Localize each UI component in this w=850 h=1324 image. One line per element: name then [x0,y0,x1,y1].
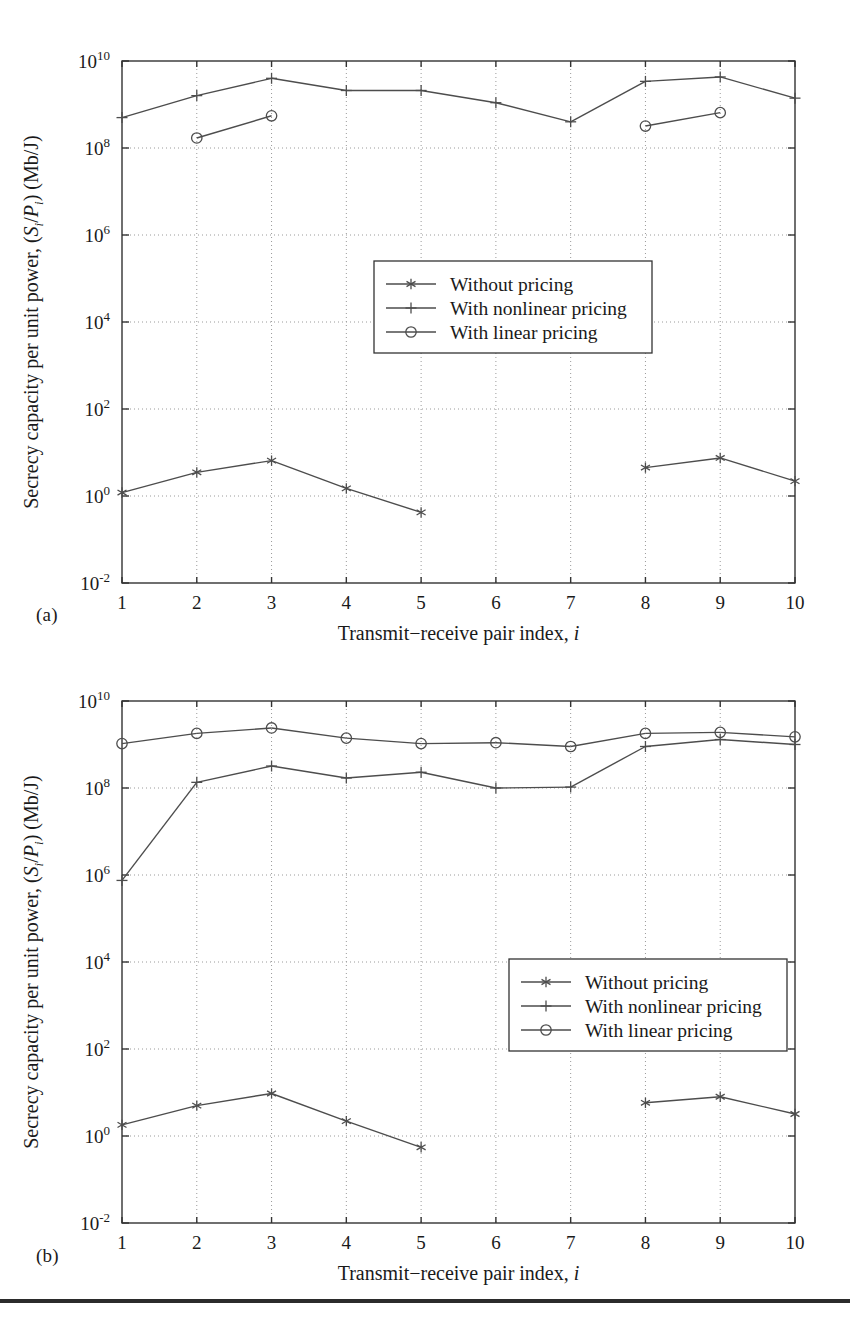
y-tick-label: 104 [85,309,111,333]
y-tick-label: 10-2 [80,1210,110,1234]
x-tick-label: 10 [786,1232,805,1253]
y-tick-label: 1010 [78,688,110,712]
legend: Without pricingWith nonlinear pricingWit… [509,959,787,1051]
chart-panel-b: 10-2100102104106108101012345678910Transm… [0,648,850,1288]
y-axis-title: Secrecy capacity per unit power, (Si/Pi)… [20,135,46,509]
x-tick-label: 7 [566,1232,576,1253]
y-tick-label: 10-2 [80,570,110,594]
x-tick-label: 9 [715,592,725,613]
legend-label: Without pricing [585,972,708,993]
x-tick-label: 7 [566,592,576,613]
y-tick-label: 102 [85,1036,111,1060]
x-tick-label: 4 [342,592,352,613]
x-tick-label: 1 [117,1232,127,1253]
chart-b-svg: 10-2100102104106108101012345678910Transm… [0,648,850,1288]
legend-label: With linear pricing [450,322,598,343]
x-tick-label: 8 [641,1232,651,1253]
x-tick-label: 3 [267,592,277,613]
subfigure-label-a: (a) [36,604,58,626]
chart-panel-a: 10-2100102104106108101012345678910Transm… [0,0,850,648]
y-tick-label: 108 [85,775,111,799]
y-tick-label: 106 [85,222,111,246]
y-tick-label: 100 [85,1123,111,1147]
y-tick-label: 1010 [78,48,110,72]
bottom-rule [0,1299,850,1303]
x-tick-label: 5 [416,592,426,613]
subfigure-label-b: (b) [36,1245,59,1267]
x-tick-label: 2 [192,592,202,613]
series-line [496,787,571,788]
legend-label: With linear pricing [585,1020,733,1041]
chart-a-svg: 10-2100102104106108101012345678910Transm… [0,0,850,648]
series-line [421,743,496,744]
x-tick-label: 5 [416,1232,426,1253]
legend-label: With nonlinear pricing [585,996,762,1017]
y-tick-label: 104 [85,949,111,973]
y-tick-label: 100 [85,483,111,507]
x-tick-label: 6 [491,592,501,613]
figure-page: 10-2100102104106108101012345678910Transm… [0,0,850,1324]
x-tick-label: 10 [786,592,805,613]
x-tick-label: 2 [192,1232,202,1253]
x-tick-label: 3 [267,1232,277,1253]
x-axis-title: Transmit−receive pair index, i [338,622,580,645]
x-tick-label: 4 [342,1232,352,1253]
x-tick-label: 1 [117,592,127,613]
y-tick-label: 108 [85,135,111,159]
legend: Without pricingWith nonlinear pricingWit… [374,261,652,353]
x-tick-label: 9 [715,1232,725,1253]
y-tick-label: 106 [85,862,111,886]
x-tick-label: 6 [491,1232,501,1253]
x-tick-label: 8 [641,592,651,613]
y-tick-label: 102 [85,396,111,420]
legend-label: With nonlinear pricing [450,298,627,319]
x-axis-title: Transmit−receive pair index, i [338,1262,580,1285]
y-axis-title: Secrecy capacity per unit power, (Si/Pi)… [20,775,46,1149]
legend-label: Without pricing [450,274,573,295]
